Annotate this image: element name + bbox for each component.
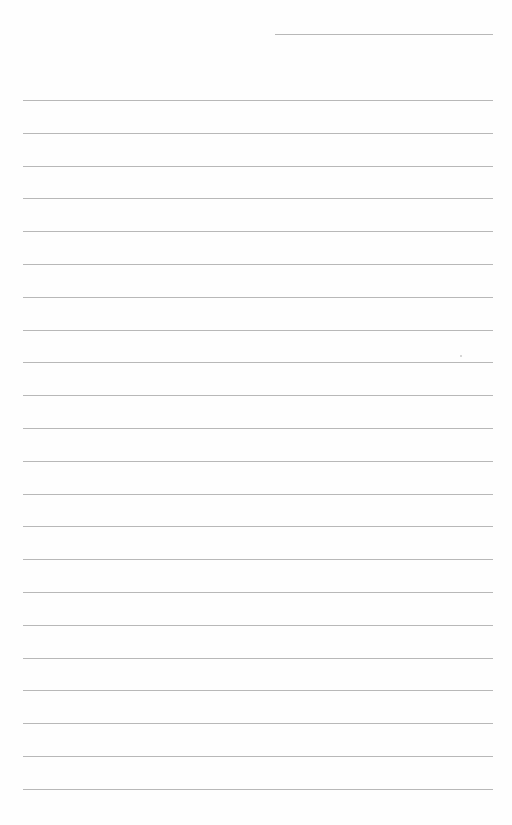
ruled-line [23,658,493,659]
ruled-line [23,395,493,396]
ruled-line [23,166,493,167]
ruled-line [23,461,493,462]
ruled-line [23,297,493,298]
ruled-line [23,428,493,429]
ruled-line [23,494,493,495]
paper-speck [460,355,462,357]
ruled-line [23,756,493,757]
ruled-line [23,264,493,265]
ruled-line [23,559,493,560]
ruled-line [23,133,493,134]
ruled-line [23,789,493,790]
ruled-line [23,198,493,199]
ruled-line [23,592,493,593]
header-line [275,34,493,35]
ruled-line [23,231,493,232]
notebook-page [0,0,512,825]
ruled-line [23,330,493,331]
ruled-line [23,526,493,527]
ruled-line [23,625,493,626]
ruled-line [23,723,493,724]
ruled-line [23,362,493,363]
ruled-line [23,100,493,101]
ruled-line [23,690,493,691]
